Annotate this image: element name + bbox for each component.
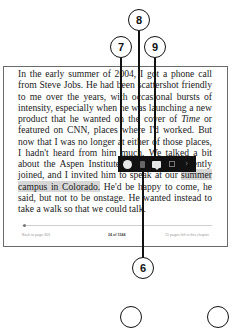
delete-highlight-button[interactable] [136,158,149,170]
callout-6: 6 [132,257,154,279]
chevron-right-icon: › [185,160,188,168]
italic-title: Time [181,113,200,124]
share-icon [169,161,175,167]
share-button[interactable] [165,158,178,170]
callout-6-leader [142,172,144,258]
note-icon [152,161,161,168]
chapter-remaining: 15 pages left in this chapter [165,233,209,237]
callout-8-leader [138,31,140,159]
callout-7-leader [120,58,122,159]
callout-9-leader [154,58,156,159]
callout-9: 9 [144,36,166,58]
trash-icon [140,161,145,168]
callout-7: 7 [110,36,132,58]
more-button[interactable]: › [180,158,193,170]
highlight-color-icon [123,160,132,169]
add-note-button[interactable] [150,158,163,170]
location-indicator: 24 of 1544 [108,233,125,237]
highlight-color-button[interactable] [121,158,134,170]
callout-partial-right [207,306,229,328]
book-text[interactable]: In the early summer of 2004, I got a pho… [18,68,212,214]
back-to-page-link[interactable]: Back to page 303 [22,233,50,237]
highlight-toolbar: › [118,156,196,172]
callout-partial-left [120,306,142,328]
progress-knob[interactable] [23,224,26,227]
callout-8: 8 [128,9,150,31]
progress-bar[interactable] [22,225,212,226]
